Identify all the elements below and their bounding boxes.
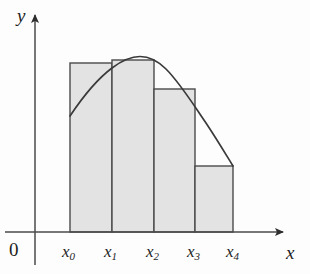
plot-canvas — [0, 0, 310, 274]
tick-base-x1: x — [104, 242, 112, 261]
tick-sub-x1: 1 — [112, 250, 118, 262]
x-axis-label: x — [286, 243, 294, 262]
tick-base-x3: x — [187, 242, 195, 261]
tick-sub-x3: 3 — [195, 250, 201, 262]
tick-label-x0: x0 — [62, 243, 75, 260]
tick-base-x4: x — [226, 242, 234, 261]
riemann-rect-2 — [112, 60, 154, 232]
tick-base-x0: x — [62, 242, 70, 261]
tick-label-x2: x2 — [146, 243, 159, 260]
riemann-sum-figure: y x 0 x0 x1 x2 x3 x4 — [0, 0, 310, 274]
tick-base-x2: x — [146, 242, 154, 261]
tick-sub-x4: 4 — [234, 250, 240, 262]
tick-label-x4: x4 — [226, 243, 239, 260]
tick-label-x1: x1 — [104, 243, 117, 260]
bars-group — [70, 60, 233, 232]
tick-sub-x0: 0 — [70, 250, 76, 262]
riemann-rect-4 — [195, 166, 233, 232]
y-axis-label: y — [17, 6, 25, 25]
riemann-rect-3 — [154, 89, 195, 232]
origin-label: 0 — [9, 240, 19, 259]
tick-sub-x2: 2 — [154, 250, 160, 262]
tick-label-x3: x3 — [187, 243, 200, 260]
